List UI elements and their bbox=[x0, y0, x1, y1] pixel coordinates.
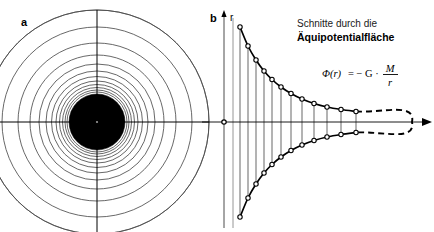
curve-point-marker bbox=[246, 196, 250, 200]
curve-point-marker bbox=[312, 138, 316, 142]
curve-point-marker bbox=[246, 44, 250, 48]
curve-point-marker bbox=[300, 97, 304, 101]
curve-point-marker bbox=[289, 148, 293, 152]
curve-point-marker bbox=[300, 143, 304, 147]
curve-point-marker bbox=[325, 105, 329, 109]
curve-point-marker bbox=[262, 69, 266, 73]
formula-lhs: Φ(r) bbox=[322, 68, 342, 80]
curve-point-marker bbox=[254, 182, 258, 186]
panel-b-label: b bbox=[210, 12, 217, 24]
curve-point-marker bbox=[339, 107, 343, 111]
curve-point-marker bbox=[354, 130, 358, 134]
panel-a-label: a bbox=[21, 16, 28, 28]
figure-root: a b r Schnitte durch die Äqui bbox=[0, 0, 434, 232]
curve-point-marker bbox=[270, 162, 274, 166]
physics-figure-svg: a b r Schnitte durch die Äqui bbox=[0, 0, 434, 232]
curve-point-marker bbox=[238, 25, 242, 29]
curve-point-marker bbox=[279, 85, 283, 89]
caption-line-1: Schnitte durch die bbox=[297, 18, 377, 29]
curve-point-marker bbox=[354, 109, 358, 113]
curve-point-marker bbox=[339, 132, 343, 136]
curve-point-marker bbox=[312, 101, 316, 105]
formula-numerator: M bbox=[385, 63, 396, 74]
curve-point-marker bbox=[270, 77, 274, 81]
curve-point-marker bbox=[238, 215, 242, 219]
center-point-marker bbox=[96, 121, 98, 123]
curve-point-marker bbox=[279, 155, 283, 159]
curve-point-marker bbox=[262, 171, 266, 175]
curve-point-marker bbox=[254, 58, 258, 62]
caption-line-2: Äquipotentialfläche bbox=[297, 31, 395, 43]
curve-point-marker bbox=[325, 135, 329, 139]
curve-point-marker bbox=[289, 91, 293, 95]
formula-equals-part: = − G · bbox=[348, 68, 379, 79]
origin-marker bbox=[222, 120, 226, 124]
